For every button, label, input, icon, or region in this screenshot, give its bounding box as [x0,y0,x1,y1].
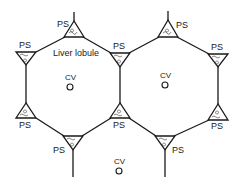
portal-space-bottom-left: PS [53,136,83,155]
portal-space-right-upper: PS [208,42,228,67]
ps-label: PS [19,40,31,50]
cv-label: CV [114,157,126,166]
central-vein-left: CV [65,73,77,90]
ps-label: PS [172,145,184,155]
cv-label: CV [160,71,172,80]
ps-label: PS [211,42,223,52]
portal-space-middle-upper: PS [110,41,130,67]
portal-space-middle-lower: PS [110,103,130,130]
portal-space-left-lower: PS [16,103,36,130]
ps-label: PS [113,41,125,51]
portal-space-left-upper: PS [16,40,36,65]
liver-lobule-diagram: PS PS PS PS PS PS PS PS PS [0,0,240,190]
cv-label: CV [65,73,77,82]
ps-label: PS [113,120,125,130]
portal-space-right-lower: PS [208,104,228,131]
portal-space-top-left: PS [57,19,84,37]
liver-lobule-label: Liver lobule [53,48,99,58]
central-vein-right: CV [160,71,172,88]
central-vein-bottom: CV [114,157,126,174]
ps-label: PS [176,20,188,30]
portal-space-bottom-right: PS [155,136,184,155]
ps-label: PS [19,120,31,130]
ps-label: PS [57,19,69,29]
portal-space-top-right: PS [158,20,188,37]
ps-label: PS [53,145,65,155]
ps-label: PS [211,121,223,131]
